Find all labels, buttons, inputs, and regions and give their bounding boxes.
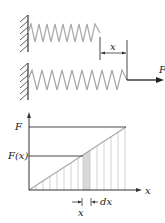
force-arrow-icon (156, 77, 164, 83)
wall-bottom (20, 63, 28, 100)
y-axis-arrow-icon (27, 112, 31, 118)
dx-label: dx (100, 196, 112, 207)
displacement-label: x (110, 41, 116, 52)
force-label: F (158, 64, 165, 75)
x-axis-label: x (145, 185, 151, 196)
spring-top (28, 24, 100, 42)
spring-work-diagram: x F F F(x (0, 0, 165, 223)
force-displacement-graph: F F(x) x dx x (7, 112, 151, 218)
y-max-label: F (14, 121, 23, 132)
x-axis-arrow-icon (136, 188, 142, 192)
spring-bottom (28, 70, 127, 90)
shaded-strip (83, 151, 90, 190)
x-position-label: x (78, 207, 84, 218)
y-mid-label: F(x) (7, 150, 28, 161)
wall-top (20, 15, 28, 52)
